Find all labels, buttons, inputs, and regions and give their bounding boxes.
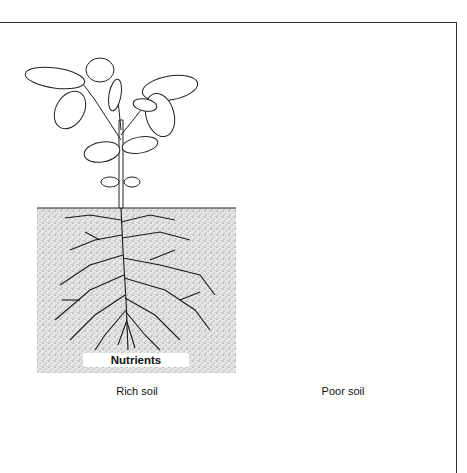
rich-soil-block [37,208,236,373]
poor-soil-caption: Poor soil [293,385,393,397]
plant-diagram [0,0,467,473]
rich-soil-caption: Rich soil [87,385,187,397]
nutrients-label: Nutrients [83,353,189,367]
rich-plant [24,58,200,208]
rich-soil-panel [24,58,236,373]
